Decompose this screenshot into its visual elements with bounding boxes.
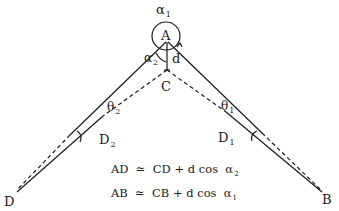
point-D1-label: D1 <box>218 131 235 144</box>
segment-A-B-solid <box>168 42 262 133</box>
point-B-label: B <box>322 193 332 206</box>
alpha1-label: α1 <box>156 3 171 16</box>
segment-A-D-dashed <box>17 135 70 190</box>
equation-AD: AD ≃ CD + d cos α2 <box>111 164 239 176</box>
theta2-label: θ2 <box>107 101 120 113</box>
point-D-label: D <box>4 195 14 208</box>
distance-d-label: d <box>172 52 180 65</box>
theta1-label: θ1 <box>221 100 234 112</box>
point-D2-label: D2 <box>99 133 116 146</box>
alpha2-label: α2 <box>144 52 158 64</box>
segment-C-B-solid <box>226 112 322 192</box>
point-C-label: C <box>161 80 171 93</box>
segment-C-B-dashed <box>167 70 226 112</box>
equation-AB: AB ≃ CB + d cos α1 <box>111 188 237 200</box>
segment-A-B-dashed <box>262 133 320 189</box>
segment-C-D-solid <box>17 116 103 192</box>
point-A-label: A <box>161 29 170 42</box>
